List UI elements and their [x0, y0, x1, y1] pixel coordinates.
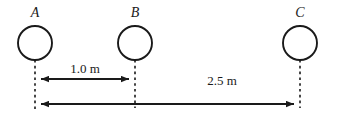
- distance-diagram: A B C 1.0 m 2.5 m: [0, 0, 338, 116]
- diagram-canvas: A B C 1.0 m 2.5 m: [0, 0, 338, 116]
- object-label-b: B: [131, 5, 140, 20]
- dimension-ac: 2.5 m: [41, 73, 294, 104]
- object-circles: [18, 26, 317, 60]
- dimension-ab: 1.0 m: [41, 61, 129, 79]
- circle-c: [283, 26, 317, 60]
- object-labels: A B C: [30, 5, 306, 20]
- object-label-a: A: [30, 5, 40, 20]
- circle-b: [118, 26, 152, 60]
- object-label-c: C: [295, 5, 305, 20]
- dimension-ab-label: 1.0 m: [70, 61, 100, 76]
- dimension-ac-label: 2.5 m: [207, 73, 237, 88]
- circle-a: [18, 26, 52, 60]
